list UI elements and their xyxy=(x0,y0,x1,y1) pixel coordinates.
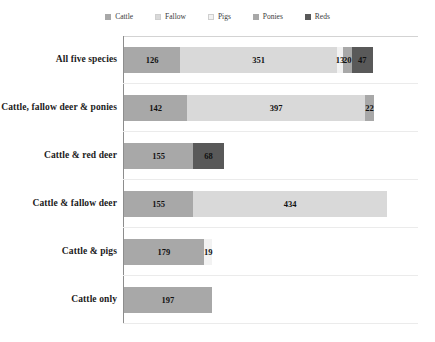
bar-value-label: 142 xyxy=(149,104,162,113)
bar-value-label: 68 xyxy=(204,152,213,161)
bar-value-label: 197 xyxy=(162,296,175,305)
bar-value-label: 351 xyxy=(252,56,265,65)
legend-swatch-icon xyxy=(208,14,214,20)
bar-value-label: 126 xyxy=(146,56,159,65)
legend-label: Ponies xyxy=(263,13,283,21)
legend-swatch-icon xyxy=(305,14,311,20)
legend-entry-pigs[interactable]: Pigs xyxy=(208,13,231,21)
bar-value-label: 397 xyxy=(270,104,283,113)
bar-row: Cattle & red deer15568 xyxy=(123,132,418,180)
bar-segment-reds[interactable]: 68 xyxy=(193,143,223,169)
stacked-bar[interactable]: 17919 xyxy=(124,239,212,265)
category-label: Cattle & red deer xyxy=(0,132,117,180)
bar-segment-cattle[interactable]: 197 xyxy=(124,287,212,313)
legend-entry-reds[interactable]: Reds xyxy=(305,13,330,21)
legend-swatch-icon xyxy=(253,14,259,20)
bar-row: Cattle & pigs17919 xyxy=(123,228,418,276)
bar-segment-cattle[interactable]: 179 xyxy=(124,239,204,265)
bar-segment-ponies[interactable]: 22 xyxy=(365,95,375,121)
legend-swatch-icon xyxy=(155,14,161,20)
legend-entry-fallow[interactable]: Fallow xyxy=(155,13,186,21)
bar-value-label: 47 xyxy=(358,56,367,65)
bar-segment-ponies[interactable]: 20 xyxy=(343,47,352,73)
legend-entry-ponies[interactable]: Ponies xyxy=(253,13,283,21)
bar-segment-cattle[interactable]: 155 xyxy=(124,191,193,217)
plot-area: All five species126351132047Cattle, fall… xyxy=(123,36,418,324)
bar-segment-fallow[interactable]: 434 xyxy=(193,191,387,217)
category-label: Cattle & pigs xyxy=(0,228,117,276)
bar-value-label: 155 xyxy=(152,200,165,209)
stacked-bar[interactable]: 14239722 xyxy=(124,95,374,121)
bar-row: Cattle, fallow deer & ponies14239722 xyxy=(123,84,418,132)
chart-legend: CattleFallowPigsPoniesReds xyxy=(0,13,435,21)
bar-segment-cattle[interactable]: 126 xyxy=(124,47,180,73)
bar-row: All five species126351132047 xyxy=(123,36,418,84)
bar-segment-cattle[interactable]: 155 xyxy=(124,143,193,169)
bar-row: Cattle only197 xyxy=(123,276,418,324)
bar-segment-fallow[interactable]: 351 xyxy=(180,47,337,73)
legend-label: Pigs xyxy=(218,13,231,21)
bar-segment-fallow[interactable]: 397 xyxy=(187,95,364,121)
category-label: Cattle only xyxy=(0,276,117,324)
category-label: Cattle & fallow deer xyxy=(0,180,117,228)
legend-label: Cattle xyxy=(115,13,133,21)
legend-swatch-icon xyxy=(105,14,111,20)
stacked-bar[interactable]: 126351132047 xyxy=(124,47,373,73)
stacked-bar[interactable]: 15568 xyxy=(124,143,224,169)
legend-entry-cattle[interactable]: Cattle xyxy=(105,13,133,21)
bar-segment-cattle[interactable]: 142 xyxy=(124,95,187,121)
category-label: Cattle, fallow deer & ponies xyxy=(0,84,117,132)
legend-label: Fallow xyxy=(165,13,186,21)
bar-row: Cattle & fallow deer155434 xyxy=(123,180,418,228)
bar-value-label: 22 xyxy=(365,104,374,113)
bar-value-label: 155 xyxy=(152,152,165,161)
bar-value-label: 434 xyxy=(284,200,297,209)
category-label: All five species xyxy=(0,36,117,84)
bar-value-label: 179 xyxy=(158,248,171,257)
bar-value-label: 19 xyxy=(204,248,213,257)
bar-segment-pigs[interactable]: 19 xyxy=(204,239,212,265)
bar-segment-reds[interactable]: 47 xyxy=(352,47,373,73)
legend-label: Reds xyxy=(315,13,330,21)
stacked-bar[interactable]: 197 xyxy=(124,287,212,313)
stacked-bar[interactable]: 155434 xyxy=(124,191,387,217)
stacked-bar-chart: CattleFallowPigsPoniesReds All five spec… xyxy=(0,0,435,342)
bar-value-label: 20 xyxy=(343,56,352,65)
